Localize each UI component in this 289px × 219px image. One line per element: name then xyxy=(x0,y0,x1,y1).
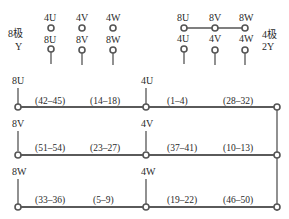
terminal-label-4w: 4W xyxy=(106,12,121,23)
terminal-label-8u: 8U xyxy=(44,34,57,45)
terminal-node-4w-2y xyxy=(242,47,248,53)
winding-node-mid-v xyxy=(143,152,149,158)
terminal-label-4u: 4U xyxy=(44,12,57,23)
winding-node-end-u xyxy=(274,104,280,110)
winding-node-mid-w xyxy=(143,204,149,210)
coil-group-label: (19–22) xyxy=(167,195,197,206)
terminal-node-8v xyxy=(79,47,85,53)
winding-u: 8U 4U (42–45) (14–18) (1–4) (28–32) xyxy=(12,75,280,110)
group-8-pole-y: 8极 Y 4U 4V 4W 8U 8V 8W xyxy=(8,12,121,65)
terminal-node-8u-2y xyxy=(181,25,187,31)
winding-v: 8V 4V (51–54) (23–27) (37–41) (10–13) xyxy=(12,118,280,158)
terminal-label-4v-2y: 4V xyxy=(209,33,222,44)
winding-node-mid-u xyxy=(143,104,149,110)
terminal-node-4u-2y xyxy=(181,46,187,52)
group-4-pole-2y: 8U 8V 8W 4极 2Y 4U 4V 4W xyxy=(177,12,277,65)
coil-group-label: (1–4) xyxy=(167,96,188,107)
terminal-label-8w-2y: 8W xyxy=(239,12,254,23)
winding-w: 8W 4W (33–36) (5–9) (19–22) (46–50) xyxy=(12,166,280,210)
terminal-node-8w xyxy=(110,47,116,53)
coil-group-label: (33–36) xyxy=(35,195,65,206)
winding-start-label-u: 8U xyxy=(12,75,25,86)
winding-start-label-w: 8W xyxy=(12,166,27,177)
terminal-node-4u xyxy=(48,25,54,31)
winding-connection-diagram: 8极 Y 4U 4V 4W 8U 8V 8W 8U 8V 8W 4极 2Y 4U… xyxy=(0,0,289,219)
terminal-node-4v-2y xyxy=(212,47,218,53)
coil-group-label: (46–50) xyxy=(223,195,253,206)
group-subtitle-2y: 2Y xyxy=(262,41,274,52)
coil-group-label: (14–18) xyxy=(90,96,120,107)
coil-group-label: (5–9) xyxy=(93,195,114,206)
terminal-node-8w-2y xyxy=(242,25,248,31)
terminal-label-8v-2y: 8V xyxy=(209,12,222,23)
terminal-node-8v-2y xyxy=(212,25,218,31)
group-title-4-pole: 4极 xyxy=(262,28,277,40)
winding-mid-label-w: 4W xyxy=(141,166,156,177)
winding-start-label-v: 8V xyxy=(12,118,25,129)
terminal-node-8u xyxy=(48,46,54,52)
group-subtitle-y: Y xyxy=(15,41,22,52)
winding-node-start-v xyxy=(15,152,21,158)
coil-group-label: (10–13) xyxy=(223,143,253,154)
terminal-label-8w: 8W xyxy=(106,34,121,45)
terminal-node-4v xyxy=(79,25,85,31)
terminal-label-8v: 8V xyxy=(76,34,89,45)
coil-group-label: (37–41) xyxy=(167,143,197,154)
terminal-label-8u-2y: 8U xyxy=(177,12,190,23)
terminal-node-4w xyxy=(110,25,116,31)
terminal-label-4v: 4V xyxy=(76,12,89,23)
terminal-label-4w-2y: 4W xyxy=(239,33,254,44)
winding-node-start-u xyxy=(15,104,21,110)
coil-group-label: (51–54) xyxy=(35,143,65,154)
winding-mid-label-u: 4U xyxy=(141,75,154,86)
group-title-8-pole: 8极 xyxy=(8,27,23,39)
coil-group-label: (42–45) xyxy=(35,96,65,107)
terminal-label-4u-2y: 4U xyxy=(177,33,190,44)
winding-mid-label-v: 4V xyxy=(141,118,154,129)
winding-node-start-w xyxy=(15,204,21,210)
coil-group-label: (23–27) xyxy=(90,143,120,154)
coil-group-label: (28–32) xyxy=(223,96,253,107)
winding-node-end-w xyxy=(274,204,280,210)
winding-node-end-v xyxy=(274,152,280,158)
